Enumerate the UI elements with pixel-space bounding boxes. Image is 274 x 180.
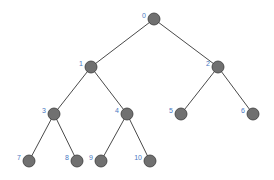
node-label: 2 [206, 60, 210, 67]
node-circle [247, 108, 259, 120]
edge-2-6 [218, 67, 253, 114]
node-label: 6 [241, 107, 245, 114]
edge-0-1 [91, 19, 154, 67]
node-label: 7 [17, 154, 21, 161]
node-circle [23, 155, 35, 167]
tree-node-3: 3 [42, 107, 60, 120]
edge-3-7 [29, 114, 54, 161]
node-circle [212, 61, 224, 73]
node-label: 9 [89, 154, 93, 161]
node-circle [48, 108, 60, 120]
tree-diagram: 012345678910 [0, 0, 274, 180]
tree-node-4: 4 [115, 107, 133, 120]
tree-node-9: 9 [89, 154, 107, 167]
node-label: 5 [169, 107, 173, 114]
node-label: 1 [79, 60, 83, 67]
node-circle [85, 61, 97, 73]
node-circle [95, 155, 107, 167]
edge-1-4 [91, 67, 127, 114]
tree-node-8: 8 [65, 154, 83, 167]
tree-node-0: 0 [142, 12, 160, 25]
node-circle [148, 13, 160, 25]
node-label: 3 [42, 107, 46, 114]
node-circle [175, 108, 187, 120]
tree-node-6: 6 [241, 107, 259, 120]
node-label: 8 [65, 154, 69, 161]
tree-node-1: 1 [79, 60, 97, 73]
edge-1-3 [54, 67, 91, 114]
tree-node-5: 5 [169, 107, 187, 120]
nodes-group: 012345678910 [17, 12, 259, 167]
node-label: 0 [142, 12, 146, 19]
tree-node-10: 10 [134, 154, 156, 167]
node-label: 4 [115, 107, 119, 114]
node-circle [144, 155, 156, 167]
node-circle [121, 108, 133, 120]
edges-group [29, 19, 253, 161]
node-label: 10 [134, 154, 142, 161]
edge-2-5 [181, 67, 218, 114]
edge-4-9 [101, 114, 127, 161]
tree-node-7: 7 [17, 154, 35, 167]
tree-node-2: 2 [206, 60, 224, 73]
node-circle [71, 155, 83, 167]
